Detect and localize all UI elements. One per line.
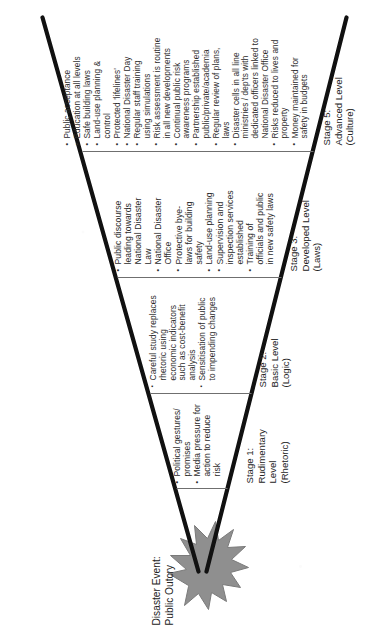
list-item: Protected 'lifelines' [112,17,122,145]
stage-3-bullet-list: Public discourse leading towards Nationa… [113,179,276,271]
stage-2-bullet-list: Careful study replaces rhetoric using ec… [148,283,217,387]
stage-3-caption: Stage 3: Developed Level (Laws) [287,161,322,271]
stage-1-bullet-list: Political gestures/ promises Media press… [172,399,222,483]
list-item: Careful study replaces rhetoric using ec… [148,283,197,387]
list-item: Risks reduced to lives and property [270,17,289,145]
list-item: Education at all levels [72,17,82,145]
list-item: Political gestures/ promises [172,399,192,483]
list-item: Money maintained for safety in budgets [290,17,309,145]
list-item: Risk assessment is routine in all new de… [152,17,171,145]
disaster-event-label: Disaster Event: Public Outcry [150,505,176,625]
stage-1-caption: Stage 1: Rudimentary Level (Rhetoric) [243,387,289,483]
stage-2-caption: Stage 2: Basic Level (Logic) [256,287,291,387]
list-item: Continual public risk awareness programs [172,17,191,145]
list-item: Training of officials and public in new … [245,179,275,271]
list-item: Public discourse leading towards Nationa… [113,179,153,271]
list-item: Media pressure for action to reduce risk [192,399,222,483]
list-item: Regular staff training using simulations [132,17,151,145]
list-item: Protective bye- laws for building safety [174,179,204,271]
list-item: Regular review of plans, laws [211,17,230,145]
list-item: Public acceptance [62,17,72,145]
list-item: Partnership established public/private/a… [191,17,210,145]
list-item: Sensitisation of public to impending cha… [197,283,217,387]
list-item: Safe building laws [82,17,92,145]
scanned-figure-page: Disaster Event: Public Outcry Political … [0,0,375,643]
stage-5-caption: Stage 5: Advanced Level (Culture) [320,21,355,145]
list-item: Supervision and inspection services esta… [215,179,245,271]
list-item: National Disaster Office [153,179,173,271]
list-item: Disaster cells in all line ministries / … [231,17,269,145]
list-item: Land-use planning [204,179,214,271]
list-item: Land-use planning & control [92,17,111,145]
list-item: National Disaster Day [122,17,132,145]
stage-5-bullet-list: Public acceptance Education at all level… [62,17,309,145]
